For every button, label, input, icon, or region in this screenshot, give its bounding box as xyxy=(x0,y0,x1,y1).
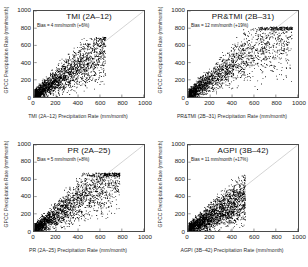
y-axis-ticks: 02004006008001000 xyxy=(3,144,31,232)
scatter-panel: GPCC Precipitation Rate (mm/month)020040… xyxy=(154,134,308,267)
data-point-cloud xyxy=(34,37,106,97)
y-tick-label: 400 xyxy=(159,193,185,199)
scatter-panel: GPCC Precipitation Rate (mm/month)020040… xyxy=(0,134,154,267)
y-tick-label: 1000 xyxy=(5,141,31,147)
y-tick-label: 800 xyxy=(159,25,185,31)
x-axis-ticks: 02004006008001000 xyxy=(187,99,299,109)
panel-title: PR&TMI (2B–31) xyxy=(187,12,299,21)
y-tick-label: 1000 xyxy=(5,7,31,13)
x-axis-label: PR&TMI (2B–31) Precipitation Rate (mm/mo… xyxy=(160,113,304,119)
y-tick-label: 200 xyxy=(159,77,185,83)
x-tick-label: 1000 xyxy=(284,99,308,106)
x-axis-ticks: 02004006008001000 xyxy=(33,99,145,109)
y-tick-label: 800 xyxy=(5,158,31,164)
y-axis-ticks: 02004006008001000 xyxy=(157,144,185,232)
y-tick-label: 600 xyxy=(159,42,185,48)
y-tick-label: 600 xyxy=(5,176,31,182)
y-tick-label: 1000 xyxy=(159,7,185,13)
y-tick-label: 800 xyxy=(5,25,31,31)
x-axis-label: AGPI (3B–42) Precipitation Rate (mm/mont… xyxy=(160,247,304,253)
panel-title: PR (2A–25) xyxy=(33,146,145,155)
x-axis-label: TMI (2A–12) Precipitation Rate (mm/month… xyxy=(6,113,150,119)
bias-annotation: Bias = 4 mm/month (+6%) xyxy=(37,23,141,28)
y-tick-label: 400 xyxy=(159,60,185,66)
y-tick-label: 200 xyxy=(159,211,185,217)
data-point-cloud xyxy=(188,174,246,230)
x-tick-label: 1000 xyxy=(284,233,308,240)
bias-annotation: Bias = 11 mm/month (+17%) xyxy=(191,157,295,162)
scatter-panel: GPCC Precipitation Rate (mm/month)020040… xyxy=(154,0,308,134)
precipitation-comparison-figure: GPCC Precipitation Rate (mm/month)020040… xyxy=(0,0,308,267)
scatter-panel: GPCC Precipitation Rate (mm/month)020040… xyxy=(0,0,154,134)
x-axis-ticks: 02004006008001000 xyxy=(187,233,299,243)
panel-title: AGPI (3B–42) xyxy=(187,146,299,155)
x-axis-label: PR (2A–25) Precipitation Rate (mm/month) xyxy=(6,247,150,253)
panel-title: TMI (2A–12) xyxy=(33,12,145,21)
y-tick-label: 1000 xyxy=(159,141,185,147)
y-tick-label: 600 xyxy=(159,176,185,182)
y-tick-label: 200 xyxy=(5,211,31,217)
y-tick-label: 200 xyxy=(5,77,31,83)
x-axis-ticks: 02004006008001000 xyxy=(33,233,145,243)
data-point-cloud xyxy=(34,172,120,230)
y-tick-label: 800 xyxy=(159,158,185,164)
y-tick-label: 600 xyxy=(5,42,31,48)
y-axis-ticks: 02004006008001000 xyxy=(3,10,31,98)
data-point-cloud xyxy=(188,26,293,97)
bias-annotation: Bias = 5 mm/month (+8%) xyxy=(37,157,141,162)
bias-annotation: Bias = 12 mm/month (+19%) xyxy=(191,23,295,28)
y-tick-label: 400 xyxy=(5,60,31,66)
y-tick-label: 400 xyxy=(5,193,31,199)
y-axis-ticks: 02004006008001000 xyxy=(157,10,185,98)
